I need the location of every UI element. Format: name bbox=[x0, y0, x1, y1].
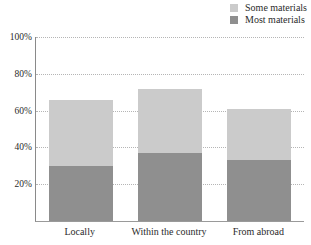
y-axis-tick-label-60: 60% bbox=[0, 106, 32, 117]
legend-label-some-materials: Some materials bbox=[245, 2, 307, 13]
chart-legend: Some materials Most materials bbox=[230, 2, 307, 25]
legend-item-most-materials: Most materials bbox=[230, 14, 307, 25]
y-axis-tick-label-80: 80% bbox=[0, 69, 32, 80]
x-axis-category-label-within-the-country: Within the country bbox=[131, 226, 206, 238]
bar-segment-some-materials-within-the-country bbox=[138, 89, 202, 153]
x-axis-category-label-from-abroad: From abroad bbox=[233, 226, 284, 238]
stacked-bar-chart-figure: Some materials Most materials 20%40%60%8… bbox=[0, 0, 311, 245]
y-axis-tick-label-20: 20% bbox=[0, 179, 32, 190]
gridline-80 bbox=[36, 74, 304, 75]
bar-segment-some-materials-locally bbox=[49, 100, 113, 166]
y-axis-tick-label-40: 40% bbox=[0, 142, 32, 153]
bar-segment-some-materials-from-abroad bbox=[227, 109, 291, 161]
legend-swatch-some-materials-icon bbox=[230, 4, 238, 12]
x-axis-category-label-locally: Locally bbox=[64, 226, 95, 238]
legend-item-some-materials: Some materials bbox=[230, 2, 307, 13]
bar-segment-most-materials-within-the-country bbox=[138, 153, 202, 221]
legend-label-most-materials: Most materials bbox=[245, 14, 305, 25]
legend-swatch-most-materials-icon bbox=[230, 16, 238, 24]
gridline-100 bbox=[36, 37, 304, 38]
plot-area bbox=[35, 37, 304, 222]
bar-segment-most-materials-from-abroad bbox=[227, 160, 291, 221]
y-axis-tick-label-100: 100% bbox=[0, 32, 32, 43]
bar-segment-most-materials-locally bbox=[49, 166, 113, 221]
